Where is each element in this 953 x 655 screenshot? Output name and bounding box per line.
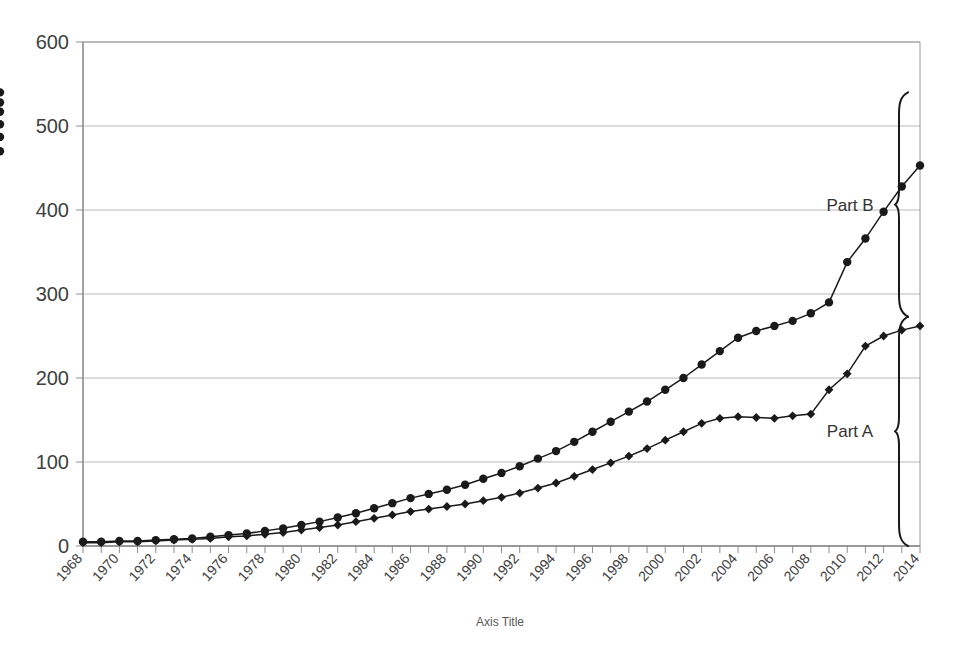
data-point: [879, 207, 887, 215]
x-tick-label: 2004: [708, 550, 741, 584]
data-point: [843, 258, 851, 266]
data-point: [533, 484, 542, 493]
x-tick-label: 1974: [162, 550, 195, 584]
data-point: [515, 489, 524, 498]
data-point: [697, 360, 705, 368]
data-point: [697, 419, 706, 428]
x-tick-label: 1998: [598, 550, 631, 584]
data-point: [825, 298, 833, 306]
data-point: [588, 428, 596, 436]
data-point: [333, 521, 342, 530]
data-point: [388, 499, 396, 507]
data-point: [443, 502, 452, 511]
x-axis-tickmarks: [83, 546, 920, 553]
data-point: [406, 494, 414, 502]
x-tick-label: 2006: [744, 550, 777, 584]
data-point: [0, 147, 4, 155]
x-tick-label: 1996: [562, 550, 595, 584]
annotation-part-a: Part A: [827, 317, 908, 546]
chart-container: 0100200300400500600 19681970197219741976…: [0, 0, 953, 655]
x-tick-label: 1990: [453, 550, 486, 584]
data-point: [752, 327, 760, 335]
annotation-label: Part A: [827, 422, 874, 441]
y-tick-label: 0: [58, 535, 69, 557]
data-point: [534, 454, 542, 462]
y-tick-label: 500: [36, 115, 69, 137]
x-tick-label: 2010: [817, 550, 850, 584]
data-point: [0, 98, 4, 106]
data-point: [497, 469, 505, 477]
data-point: [352, 509, 360, 517]
data-point: [570, 472, 579, 481]
data-point: [752, 413, 761, 422]
data-point: [770, 414, 779, 423]
curly-brace-icon: [895, 317, 908, 546]
data-point: [479, 496, 488, 505]
data-point: [770, 322, 778, 330]
data-point: [734, 333, 742, 341]
x-tick-label: 1986: [380, 550, 413, 584]
series-line: [83, 165, 920, 541]
x-tick-label: 1970: [89, 550, 122, 584]
brace-annotations: Part BPart A: [826, 92, 908, 546]
data-point: [370, 504, 378, 512]
data-point: [788, 411, 797, 420]
x-tick-label: 2008: [780, 550, 813, 584]
data-point: [425, 490, 433, 498]
y-axis-tick-labels: 0100200300400500600: [36, 31, 69, 557]
x-axis-tick-labels: 1968197019721974197619781980198219841986…: [52, 550, 922, 584]
data-point: [879, 332, 888, 341]
data-point: [624, 452, 633, 461]
x-tick-label: 1980: [271, 550, 304, 584]
y-tick-label: 100: [36, 451, 69, 473]
data-point: [807, 309, 815, 317]
data-point: [606, 458, 615, 467]
data-point: [570, 438, 578, 446]
data-point: [0, 133, 4, 141]
x-axis-title: Axis Title: [476, 615, 524, 629]
x-tick-label: 1976: [198, 550, 231, 584]
y-tick-label: 200: [36, 367, 69, 389]
data-point: [916, 161, 924, 169]
data-point: [0, 108, 4, 116]
data-series: [0, 88, 924, 547]
data-point: [515, 462, 523, 470]
data-point: [861, 234, 869, 242]
series-line: [83, 326, 920, 543]
x-tick-label: 2002: [671, 550, 704, 584]
line-chart: 0100200300400500600 19681970197219741976…: [0, 0, 953, 655]
data-point: [661, 386, 669, 394]
x-tick-label: 1972: [125, 550, 158, 584]
x-tick-label: 1982: [307, 550, 340, 584]
data-point: [352, 517, 361, 526]
y-axis-ticks: [76, 42, 83, 546]
series-part-a: [79, 322, 925, 548]
x-tick-label: 1994: [526, 550, 559, 584]
x-tick-label: 1992: [489, 550, 522, 584]
x-tick-label: 2014: [889, 550, 922, 584]
data-point: [861, 342, 870, 351]
data-point: [552, 447, 560, 455]
data-point: [625, 407, 633, 415]
y-tick-label: 300: [36, 283, 69, 305]
data-point: [588, 465, 597, 474]
data-point: [497, 493, 506, 502]
data-point: [734, 412, 743, 421]
data-point: [552, 479, 561, 488]
data-point: [334, 513, 342, 521]
data-point: [916, 322, 925, 331]
data-point: [679, 374, 687, 382]
data-point: [643, 397, 651, 405]
data-point: [461, 480, 469, 488]
data-point: [370, 514, 379, 523]
data-point: [443, 486, 451, 494]
series-total: [0, 88, 924, 546]
x-tick-label: 1984: [344, 550, 377, 584]
data-point: [406, 507, 415, 516]
data-point: [643, 444, 652, 453]
data-point: [0, 120, 4, 128]
data-point: [661, 436, 670, 445]
x-tick-label: 2000: [635, 550, 668, 584]
x-tick-label: 1978: [234, 550, 267, 584]
x-tick-label: 2012: [853, 550, 886, 584]
